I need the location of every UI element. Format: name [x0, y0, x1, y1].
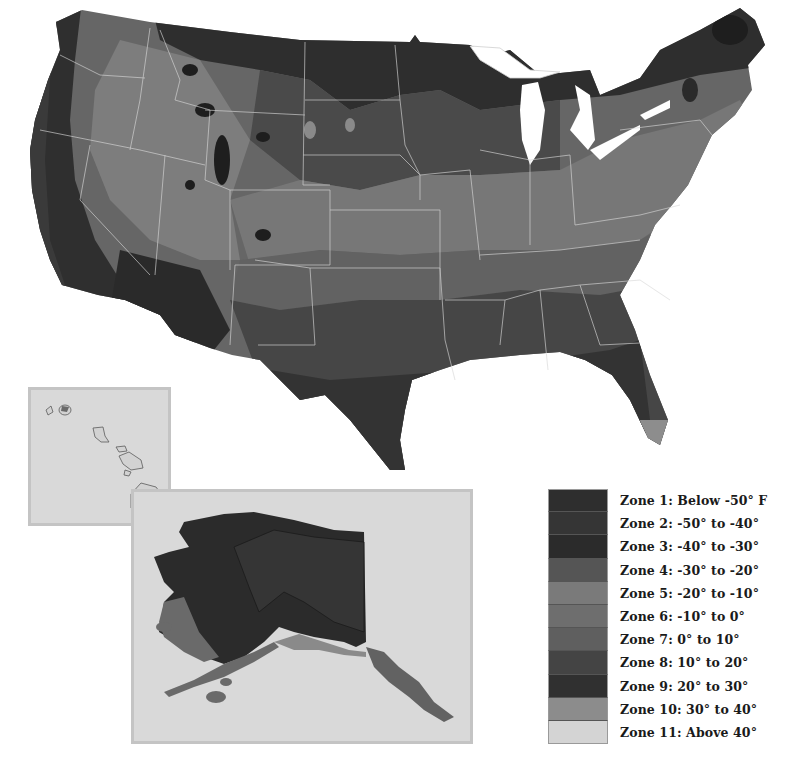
legend-label: Zone 11: Above 40° — [620, 725, 757, 740]
legend-label: Zone 4: -30° to -20° — [620, 563, 759, 578]
legend-label: Zone 1: Below -50° F — [620, 493, 767, 508]
zone-3-swatch — [548, 535, 608, 558]
zone-11-swatch — [548, 721, 608, 744]
zone-2-swatch — [548, 512, 608, 535]
zone-legend: Zone 1: Below -50° F Zone 2: -50° to -40… — [548, 489, 767, 744]
legend-item-zone-1: Zone 1: Below -50° F — [548, 489, 767, 512]
zone-4-swatch — [548, 559, 608, 582]
legend-label: Zone 6: -10° to 0° — [620, 609, 745, 624]
legend-item-zone-10: Zone 10: 30° to 40° — [548, 698, 767, 721]
legend-item-zone-5: Zone 5: -20° to -10° — [548, 582, 767, 605]
legend-item-zone-7: Zone 7: 0° to 10° — [548, 628, 767, 651]
legend-label: Zone 2: -50° to -40° — [620, 516, 759, 531]
zone-10-swatch — [548, 698, 608, 721]
legend-label: Zone 5: -20° to -10° — [620, 586, 759, 601]
legend-item-zone-3: Zone 3: -40° to -30° — [548, 535, 767, 558]
zone-6-swatch — [548, 605, 608, 628]
alaska-map — [134, 492, 470, 741]
legend-label: Zone 9: 20° to 30° — [620, 679, 748, 694]
legend-item-zone-4: Zone 4: -30° to -20° — [548, 559, 767, 582]
legend-label: Zone 7: 0° to 10° — [620, 632, 740, 647]
zone-1-swatch — [548, 489, 608, 512]
legend-label: Zone 3: -40° to -30° — [620, 539, 759, 554]
legend-item-zone-8: Zone 8: 10° to 20° — [548, 651, 767, 674]
zone-5-swatch — [548, 582, 608, 605]
zone-8-swatch — [548, 651, 608, 674]
legend-label: Zone 10: 30° to 40° — [620, 702, 757, 717]
alaska-inset — [131, 489, 473, 744]
legend-item-zone-2: Zone 2: -50° to -40° — [548, 512, 767, 535]
legend-item-zone-11: Zone 11: Above 40° — [548, 721, 767, 744]
zone-7-swatch — [548, 628, 608, 651]
zone-9-swatch — [548, 675, 608, 698]
legend-label: Zone 8: 10° to 20° — [620, 655, 748, 670]
legend-item-zone-9: Zone 9: 20° to 30° — [548, 675, 767, 698]
legend-item-zone-6: Zone 6: -10° to 0° — [548, 605, 767, 628]
